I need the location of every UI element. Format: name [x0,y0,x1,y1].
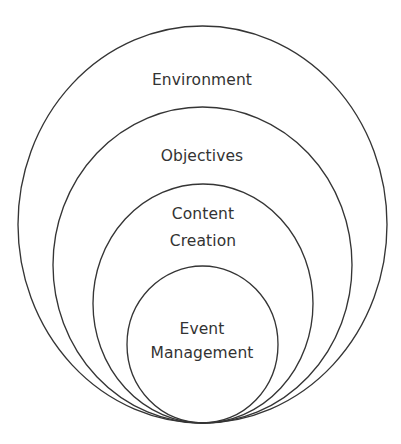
content-creation-label-line2: Creation [170,232,236,250]
objectives-label: Objectives [161,147,244,165]
diagram-svg: Environment Objectives Content Creation … [0,0,401,444]
event-management-label-line2: Management [150,344,253,362]
nested-circles-diagram: Environment Objectives Content Creation … [0,0,401,444]
content-creation-label-line1: Content [172,205,234,223]
environment-label: Environment [152,71,252,89]
event-management-label-line1: Event [180,320,225,338]
